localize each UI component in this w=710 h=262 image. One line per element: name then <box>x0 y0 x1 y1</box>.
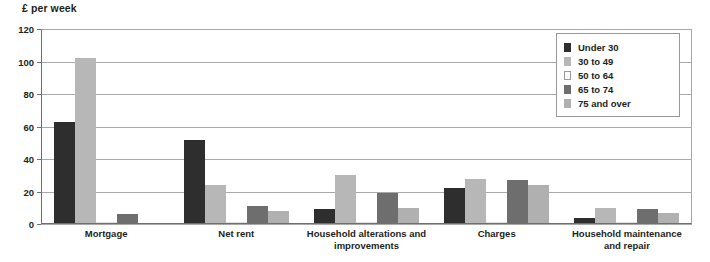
x-axis-label-line: Net rent <box>171 228 301 240</box>
bar <box>637 209 658 224</box>
x-axis-label-line: improvements <box>283 240 449 252</box>
bar <box>117 214 138 224</box>
bar <box>205 185 226 224</box>
legend-item[interactable]: 30 to 49 <box>564 54 671 68</box>
x-axis-label: Charges <box>432 228 562 240</box>
bar <box>528 185 549 224</box>
bar <box>507 180 528 224</box>
x-axis-label: Mortgage <box>41 228 171 240</box>
bar <box>356 222 377 224</box>
y-axis-label-0: 0 <box>29 219 34 230</box>
legend-swatch-icon <box>564 71 571 80</box>
gridline-0 <box>41 224 692 225</box>
bar <box>335 175 356 224</box>
bar-group <box>171 29 301 224</box>
legend-label: 30 to 49 <box>578 56 613 67</box>
bar <box>595 208 616 224</box>
bar <box>184 140 205 225</box>
bar <box>138 223 159 224</box>
bar-group <box>432 29 562 224</box>
x-axis-label-line: Charges <box>432 228 562 240</box>
bar <box>377 193 398 224</box>
legend: Under 3030 to 4950 to 6465 to 7475 and o… <box>556 33 680 117</box>
bar <box>96 222 117 224</box>
y-axis-label-80: 80 <box>23 89 34 100</box>
bar <box>444 188 465 224</box>
bar <box>616 222 637 224</box>
x-axis-label-line: Mortgage <box>41 228 171 240</box>
bar-group <box>41 29 171 224</box>
x-axis-label: Household maintenanceand repair <box>544 228 710 252</box>
bar-chart: £ per week 020406080100120 MortgageNet r… <box>0 0 710 262</box>
bar-group <box>301 29 431 224</box>
legend-swatch-icon <box>564 99 571 108</box>
x-axis-label-line: Household maintenance <box>544 228 710 240</box>
legend-item[interactable]: 65 to 74 <box>564 82 671 96</box>
bar <box>314 209 335 224</box>
legend-item[interactable]: 75 and over <box>564 96 671 110</box>
bar <box>465 179 486 225</box>
bar <box>247 206 268 224</box>
bar <box>574 218 595 225</box>
legend-label: 50 to 64 <box>578 70 613 81</box>
y-axis-title: £ per week <box>22 2 77 14</box>
legend-item[interactable]: Under 30 <box>564 40 671 54</box>
y-axis-label-40: 40 <box>23 154 34 165</box>
legend-swatch-icon <box>564 85 571 94</box>
y-axis-label-100: 100 <box>18 56 34 67</box>
bar <box>486 222 507 224</box>
bar <box>658 213 679 224</box>
bar <box>54 122 75 224</box>
legend-label: Under 30 <box>578 42 619 53</box>
x-axis-label-line: and repair <box>544 240 710 252</box>
bar <box>268 211 289 224</box>
legend-label: 75 and over <box>578 98 631 109</box>
legend-swatch-icon <box>564 43 571 52</box>
x-axis-label: Household alterations andimprovements <box>283 228 449 252</box>
legend-label: 65 to 74 <box>578 84 613 95</box>
y-axis-label-60: 60 <box>23 121 34 132</box>
x-axis-label: Net rent <box>171 228 301 240</box>
legend-item[interactable]: 50 to 64 <box>564 68 671 82</box>
bar <box>398 208 419 224</box>
y-tick-0 <box>37 224 41 225</box>
legend-swatch-icon <box>564 57 571 66</box>
bar <box>226 222 247 224</box>
x-axis-label-line: Household alterations and <box>283 228 449 240</box>
x-axis-category-labels: MortgageNet rentHousehold alterations an… <box>41 228 692 262</box>
y-axis-label-20: 20 <box>23 186 34 197</box>
bar <box>75 58 96 224</box>
y-axis-label-120: 120 <box>18 24 34 35</box>
